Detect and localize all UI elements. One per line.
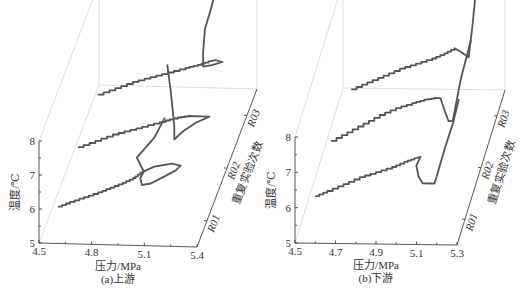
x-tick-label: 4.8 xyxy=(85,246,99,258)
x-tick-label: 4.5 xyxy=(32,245,46,257)
panel-caption: (a)上游 xyxy=(101,273,135,286)
floor-diagonal xyxy=(295,88,343,243)
z-tick-label: R01 xyxy=(204,213,222,235)
x-axis-title: 压力/MPa xyxy=(95,260,141,272)
y-tick-label: 7 xyxy=(30,169,36,181)
y-tick-label: 8 xyxy=(286,131,292,143)
x-tick-label: 4.9 xyxy=(369,246,383,258)
chart-panel-b: 56784.54.74.95.15.3R01R02R03温度/℃压力/MPa(b… xyxy=(264,0,517,285)
x-tick-label: 4.7 xyxy=(329,246,343,258)
z-tick-label: R03 xyxy=(495,108,512,130)
y-axis-title: 温度/℃ xyxy=(264,171,277,208)
x-axis-title: 压力/MPa xyxy=(353,259,399,271)
series-line-r02 xyxy=(331,40,471,141)
figure: 56784.54.85.15.4R01R02R03温度/℃压力/MPa(a)上游… xyxy=(0,0,525,298)
back-box-frame xyxy=(39,0,257,141)
z-tick-label: R01 xyxy=(463,212,480,233)
y-tick-label: 6 xyxy=(286,202,292,214)
x-tick-label: 5.1 xyxy=(410,247,424,259)
x-tick-label: 5.3 xyxy=(450,247,464,259)
series-line-r02 xyxy=(78,65,210,148)
series-line-r03 xyxy=(351,0,477,89)
z-tick-label: R03 xyxy=(244,107,262,129)
series-line-r03 xyxy=(98,0,223,95)
chart-panel-a: 56784.54.85.15.4R01R02R03温度/℃压力/MPa(a)上游… xyxy=(8,0,265,286)
x-tick-label: 5.1 xyxy=(137,248,151,260)
y-tick-label: 7 xyxy=(286,166,292,178)
x-tick-label: 5.4 xyxy=(190,249,204,261)
y-tick-label: 6 xyxy=(30,203,36,215)
panel-caption: (b)下游 xyxy=(359,272,394,285)
x-tick-label: 4.5 xyxy=(288,245,302,257)
y-tick-label: 8 xyxy=(30,135,36,147)
y-axis-title: 温度/℃ xyxy=(8,173,21,210)
series-line-r01 xyxy=(58,118,181,207)
floor-diagonal xyxy=(39,85,99,243)
